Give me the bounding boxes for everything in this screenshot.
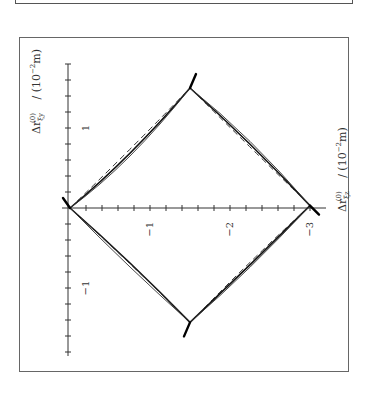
x-tick-label: −3 bbox=[304, 222, 315, 237]
vertex-marker bbox=[190, 74, 196, 88]
vertex-marker bbox=[63, 198, 70, 208]
x-tick-label: −2 bbox=[224, 222, 235, 237]
y-tick-label: −1 bbox=[80, 281, 91, 296]
y-tick-label: 1 bbox=[80, 125, 91, 131]
curve-dashed bbox=[70, 88, 310, 322]
curve-solid-thick bbox=[70, 88, 310, 322]
diamond-trajectory-chart: −1−2−31−1 bbox=[0, 0, 366, 395]
x-tick-label: −1 bbox=[144, 222, 155, 237]
x-axis-label: Δrξz(0) / (10−2m) bbox=[335, 127, 351, 212]
vertex-marker bbox=[310, 206, 319, 215]
y-axis-label: Δrξy(0) / (10−2m) bbox=[29, 49, 45, 134]
curve-solid-thin bbox=[70, 88, 310, 322]
vertex-marker bbox=[184, 322, 190, 336]
